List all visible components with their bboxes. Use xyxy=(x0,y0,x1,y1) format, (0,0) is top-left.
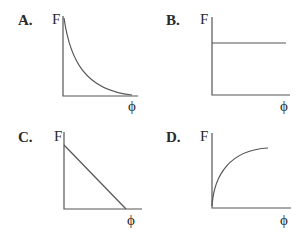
panel-c-graph xyxy=(64,132,142,209)
panel-a-label: A. xyxy=(18,13,33,28)
panel-d-y-axis-label: F xyxy=(200,129,208,144)
panel-b-label: B. xyxy=(166,13,180,28)
panel-c-y-axis-label: F xyxy=(54,129,62,144)
panel-b-y-axis-label: F xyxy=(200,12,208,27)
panel-b-graph xyxy=(212,17,290,95)
panel-d-graph xyxy=(212,133,291,208)
panel-d-rising-curve xyxy=(212,148,268,206)
panel-d-label: D. xyxy=(166,130,181,145)
panel-a-decay-curve xyxy=(64,18,132,95)
panel-a-y-axis-label: F xyxy=(52,12,60,27)
panel-c-axes xyxy=(64,132,142,209)
panel-a-x-axis-label: ϕ xyxy=(128,99,136,114)
graphs-canvas xyxy=(0,0,304,241)
panel-d-x-axis-label: ϕ xyxy=(280,213,288,228)
panel-b-x-axis-label: ϕ xyxy=(280,99,288,114)
panel-b-axes xyxy=(212,17,290,95)
panel-c-label: C. xyxy=(18,130,33,145)
panel-c-x-axis-label: ϕ xyxy=(127,213,135,228)
panel-a-graph xyxy=(63,16,138,96)
panel-c-linear-line xyxy=(64,145,126,209)
panel-d-axes xyxy=(212,133,291,208)
